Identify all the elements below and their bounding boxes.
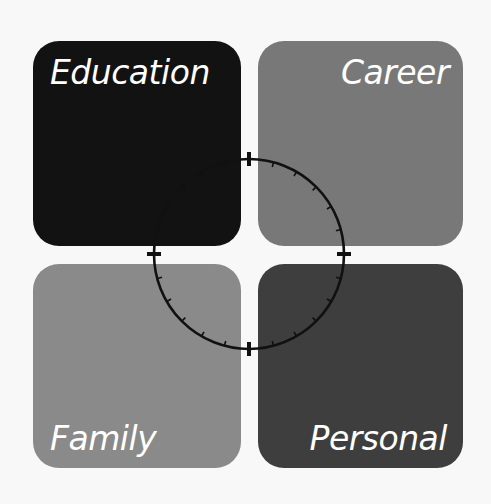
quadrant-family: Family bbox=[33, 264, 241, 468]
quadrant-label-family: Family bbox=[50, 419, 156, 458]
quadrant-label-education: Education bbox=[50, 53, 210, 92]
quadrant-label-career: Career bbox=[341, 53, 449, 92]
quadrant-label-personal: Personal bbox=[310, 419, 447, 458]
quadrant-education: Education bbox=[33, 41, 241, 246]
quadrant-personal: Personal bbox=[258, 264, 463, 468]
quadrant-career: Career bbox=[258, 41, 463, 246]
